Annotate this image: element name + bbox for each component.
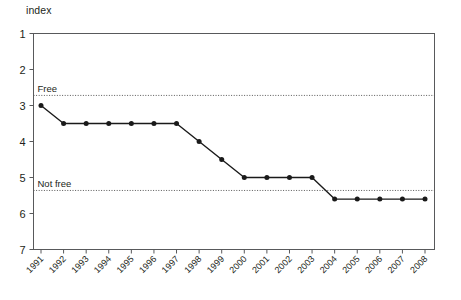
data-point-marker: [84, 121, 89, 126]
data-point-marker: [151, 121, 156, 126]
data-point-marker: [423, 197, 428, 202]
data-series-lines: [41, 106, 425, 200]
y-tick-label: 4: [19, 136, 25, 148]
data-point-marker: [264, 175, 269, 180]
x-tick-label: 1999: [205, 254, 226, 275]
x-tick-label: 2007: [386, 254, 407, 275]
data-point-marker: [106, 121, 111, 126]
data-point-marker: [310, 175, 315, 180]
x-tick-label: 1991: [24, 254, 45, 275]
data-point-marker: [332, 197, 337, 202]
x-tick-label: 2001: [250, 254, 271, 275]
x-tick-label: 2004: [318, 254, 339, 275]
data-point-marker: [242, 175, 247, 180]
y-tick-label: 1: [19, 28, 25, 40]
x-tick-label: 1998: [182, 254, 203, 275]
plot-frame: [34, 34, 435, 250]
y-tick-label: 7: [19, 244, 25, 256]
y-tick-label: 6: [19, 208, 25, 220]
x-tick-label: 1995: [115, 254, 136, 275]
x-tick-label: 1992: [47, 254, 68, 275]
threshold-label: Free: [38, 83, 58, 94]
x-tick-label: 2002: [273, 254, 294, 275]
y-tick-label: 5: [19, 172, 25, 184]
x-tick-label: 2000: [227, 254, 248, 275]
data-point-marker: [39, 103, 44, 108]
data-point-marker: [61, 121, 66, 126]
threshold-lines: FreeNot free: [34, 83, 435, 191]
x-tick-label: 1993: [69, 254, 90, 275]
threshold-label: Not free: [38, 178, 72, 189]
data-series-points: [39, 103, 428, 202]
data-point-marker: [174, 121, 179, 126]
data-point-marker: [355, 197, 360, 202]
x-tick-label: 1996: [137, 254, 158, 275]
y-tick-label: 3: [19, 100, 25, 112]
data-point-marker: [400, 197, 405, 202]
data-point-marker: [197, 139, 202, 144]
data-point-marker: [287, 175, 292, 180]
data-point-marker: [377, 197, 382, 202]
x-tick-label: 2003: [295, 254, 316, 275]
x-tick-label: 1997: [160, 254, 181, 275]
y-tick-label: 2: [19, 64, 25, 76]
x-axis-ticks: 1991199219931994199519961997199819992000…: [24, 250, 429, 276]
x-tick-label: 2005: [340, 254, 361, 275]
data-point-marker: [129, 121, 134, 126]
data-point-marker: [219, 157, 224, 162]
y-axis-ticks: 1234567: [19, 28, 33, 256]
line-chart-plot: 1234567 19911992199319941995199619971998…: [0, 0, 461, 300]
x-tick-label: 2008: [408, 254, 429, 275]
chart-figure: index 1234567 19911992199319941995199619…: [0, 0, 461, 300]
x-tick-label: 1994: [92, 254, 113, 275]
x-tick-label: 2006: [363, 254, 384, 275]
